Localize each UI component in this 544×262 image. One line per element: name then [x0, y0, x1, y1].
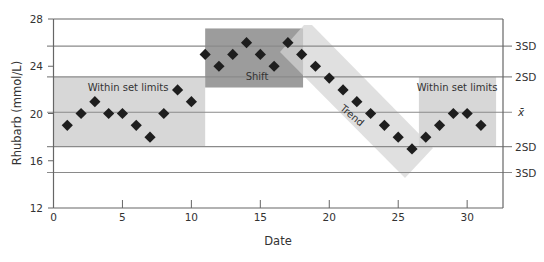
x-axis-title: Date: [264, 234, 292, 248]
x-tick-label: 25: [392, 211, 405, 223]
ref-label-0: 3SD: [515, 40, 536, 52]
y-tick-label: 28: [30, 13, 43, 25]
x-tick-label: 15: [254, 211, 267, 223]
ref-label-4: 3SD: [515, 167, 536, 179]
control-chart: 3SD2SDx̄2SD3SD1216202428051015202530Date…: [0, 0, 544, 262]
y-tick-label: 24: [30, 60, 44, 72]
x-tick-label: 0: [50, 211, 57, 223]
ref-label-3: 2SD: [515, 141, 536, 153]
y-tick-label: 16: [30, 155, 44, 167]
ref-label-1: 2SD: [515, 71, 536, 83]
y-axis-title: Rhubarb (mmol/L): [10, 61, 24, 166]
y-tick-label: 12: [30, 202, 43, 214]
shift-label: Shift: [246, 71, 269, 82]
y-tick-label: 20: [30, 108, 43, 120]
x-tick-label: 20: [323, 211, 336, 223]
within-set-limits-label: Within set limits: [88, 82, 169, 93]
x-tick-label: 30: [460, 211, 473, 223]
annotation-regions: [54, 25, 497, 178]
within-set-limits-label: Within set limits: [417, 82, 498, 93]
ref-label-2: x̄: [517, 106, 525, 118]
x-tick-label: 10: [185, 211, 198, 223]
x-tick-label: 5: [119, 211, 126, 223]
